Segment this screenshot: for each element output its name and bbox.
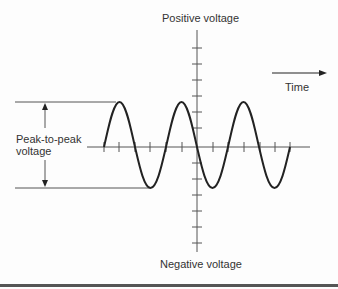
bottom-divider xyxy=(0,284,338,287)
positive-voltage-label: Positive voltage xyxy=(162,12,239,25)
time-arrow-icon xyxy=(319,70,327,76)
negative-voltage-label: Negative voltage xyxy=(160,258,242,271)
up-arrow-icon xyxy=(42,103,48,110)
peak-to-peak-label-line2: voltage xyxy=(16,145,51,158)
down-arrow-icon xyxy=(42,180,48,187)
time-label: Time xyxy=(285,81,309,94)
axes xyxy=(87,30,310,252)
sine-wave-diagram: Positive voltage Time Peak-to-peak volta… xyxy=(0,0,338,289)
